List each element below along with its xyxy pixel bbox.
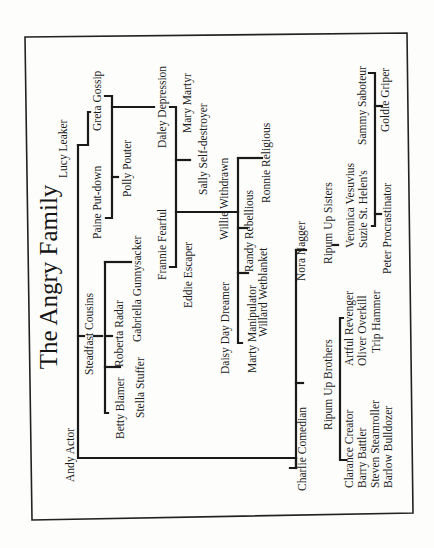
person-daley-depression: Daley Depression [156, 66, 169, 148]
person-clarance-creator: Clarance Creator [343, 410, 355, 488]
person-andy-actor: Andy Actor [64, 428, 77, 482]
person-eddie-escaper: Eddie Escaper [182, 242, 195, 308]
person-polly-pouter: Polly Pouter [121, 140, 134, 197]
person-gabriella-gunnysacker: Gabriella Gunnysacker [131, 235, 144, 342]
person-ronnie-religious: Ronnie Religious [260, 122, 273, 203]
person-goldie-griper: Goldie Griper [379, 68, 392, 132]
person-greta-gossip: Greta Gossip [91, 70, 104, 131]
person-betty-blamer: Betty Blamer [114, 377, 127, 439]
person-ripum-up-sisters: Ripum Up Sisters [322, 182, 335, 264]
person-willie-withdrawn: Willie Withdrawn [218, 158, 230, 240]
person-barlow-bulldozer: Barlow Bulldozer [382, 406, 394, 488]
person-trip-hammer: Trip Hammer [370, 290, 383, 353]
person-nora-nagger: Nora Nagger [295, 221, 308, 281]
person-randy-rebellious: Randy Rebellious [243, 189, 256, 272]
person-roberta-radar: Roberta Radar [113, 300, 125, 367]
person-sammy-saboteur: Sammy Saboteur [356, 66, 369, 145]
scanned-page: The Angry Family [0, 0, 434, 548]
person-barry-battler: Barry Battler [356, 427, 369, 488]
person-peter-procrastinator: Peter Procrastinator [381, 183, 393, 274]
person-steadfast-cousins: Steadfast Cousins [83, 292, 95, 375]
person-labels: Lucy Leaker Greta Gossip Paine Put-down … [57, 66, 394, 491]
person-paine-put-down: Paine Put-down [91, 166, 103, 239]
person-frannie-fearful: Frannie Fearful [156, 209, 168, 280]
person-lucy-leaker: Lucy Leaker [57, 119, 70, 178]
person-ripum-up-brothers: Ripum Up Brothers [322, 339, 335, 430]
person-steven-steamroller: Steven Steamroller [369, 400, 381, 488]
person-mary-martyr: Mary Martyr [181, 73, 194, 133]
person-willard-wetblanket: Willard Wetblanket [257, 247, 269, 337]
person-suzie-st-helens: Suzie St. Helen's [357, 170, 369, 248]
person-artful-revenger: Artful Revenger [343, 291, 356, 366]
person-veronica-vesuvius: Veronica Vesuvius [344, 162, 356, 248]
diagram-title: The Angry Family [35, 184, 62, 369]
person-oliver-overkill: Oliver Overkill [356, 295, 368, 366]
person-charlie-comedian: Charlie Comedian [296, 407, 308, 491]
family-tree-diagram: The Angry Family [0, 0, 434, 548]
person-stella-stuffer: Stella Stuffer [134, 357, 146, 418]
person-daisy-day-dreamer: Daisy Day Dreamer [219, 282, 232, 374]
person-sally-self-destroyer: Sally Self-destroyer [197, 103, 210, 195]
person-marty-manipulator: Marty Manipulator [246, 285, 259, 373]
